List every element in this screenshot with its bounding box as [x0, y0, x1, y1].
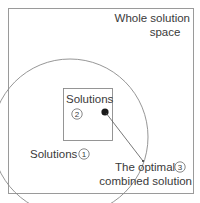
number-2-label: 2 — [75, 110, 80, 119]
solution-space-diagram: Whole solution space Solutions 2 Solutio… — [0, 0, 200, 203]
number-1-label: 1 — [82, 150, 87, 159]
optimal-solution-pointer-line — [106, 113, 143, 161]
solutions-1-label: Solutions — [30, 148, 78, 160]
whole-solution-space-label-line2: space — [150, 26, 181, 38]
optimal-solution-label-line2: combined solution — [99, 175, 192, 187]
whole-solution-space-label-line1: Whole solution — [115, 12, 190, 24]
solutions-2-label: Solutions — [66, 93, 114, 105]
optimal-solution-label-line1: The optimal — [115, 161, 175, 173]
number-3-label: 3 — [178, 163, 183, 172]
